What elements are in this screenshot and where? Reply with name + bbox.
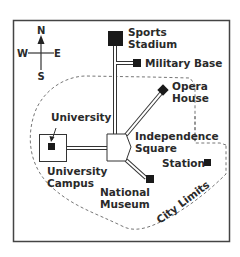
- label-opera-house-1: Opera: [172, 80, 208, 92]
- label-national-museum-2: Museum: [100, 198, 150, 210]
- city-map: N S W E Sports Stadium Military: [0, 0, 240, 257]
- sports-stadium-marker: [108, 31, 123, 46]
- label-university-campus-1: University: [47, 165, 108, 177]
- label-opera-house-2: House: [172, 92, 209, 104]
- label-university-campus-2: Campus: [47, 177, 94, 189]
- label-station: Station: [162, 157, 205, 169]
- label-independence-square-1: Independence: [135, 130, 219, 142]
- compass-east: E: [54, 48, 61, 59]
- national-museum-marker: [146, 175, 154, 183]
- compass-west: W: [17, 48, 28, 59]
- label-university: University: [51, 111, 112, 123]
- university-marker: [48, 143, 55, 150]
- independence-square-plaza: [107, 134, 131, 161]
- military-base-marker: [133, 59, 141, 67]
- label-independence-square-2: Square: [135, 142, 177, 154]
- label-sports-stadium-1: Sports: [128, 26, 167, 38]
- label-sports-stadium-2: Stadium: [128, 38, 177, 50]
- label-national-museum-1: National: [100, 186, 150, 198]
- compass-south: S: [38, 71, 45, 82]
- label-military-base: Military Base: [145, 57, 223, 69]
- compass-north: N: [37, 25, 45, 36]
- station-marker: [204, 159, 211, 166]
